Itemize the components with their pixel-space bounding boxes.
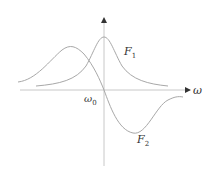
resonance-diagram: ω ω0 F1 F2: [0, 0, 213, 184]
origin-label: ω0: [84, 93, 97, 107]
f1-label: F1: [123, 45, 136, 60]
curve-f1: [36, 37, 168, 86]
f2-label: F2: [136, 133, 149, 148]
diagram-canvas: ω ω0 F1 F2: [0, 0, 213, 184]
x-axis-label: ω: [193, 84, 202, 97]
